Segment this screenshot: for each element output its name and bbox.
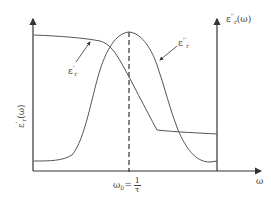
left-axis-label: ε'r(ω) — [14, 104, 27, 128]
omega0-tick-label: ω0=1τ — [113, 177, 141, 194]
curve-real-label: ε'r — [68, 64, 77, 77]
curve-real-permittivity — [34, 35, 217, 134]
right-axis-label: ε''r(ω) — [226, 12, 251, 25]
imag-label-pointer — [160, 46, 177, 60]
x-axis-label: ω — [256, 176, 263, 186]
permittivity-diagram — [0, 0, 271, 203]
curve-imag-permittivity — [34, 32, 217, 162]
real-label-pointer — [76, 42, 90, 62]
curve-imag-label: ε''r — [178, 36, 189, 49]
